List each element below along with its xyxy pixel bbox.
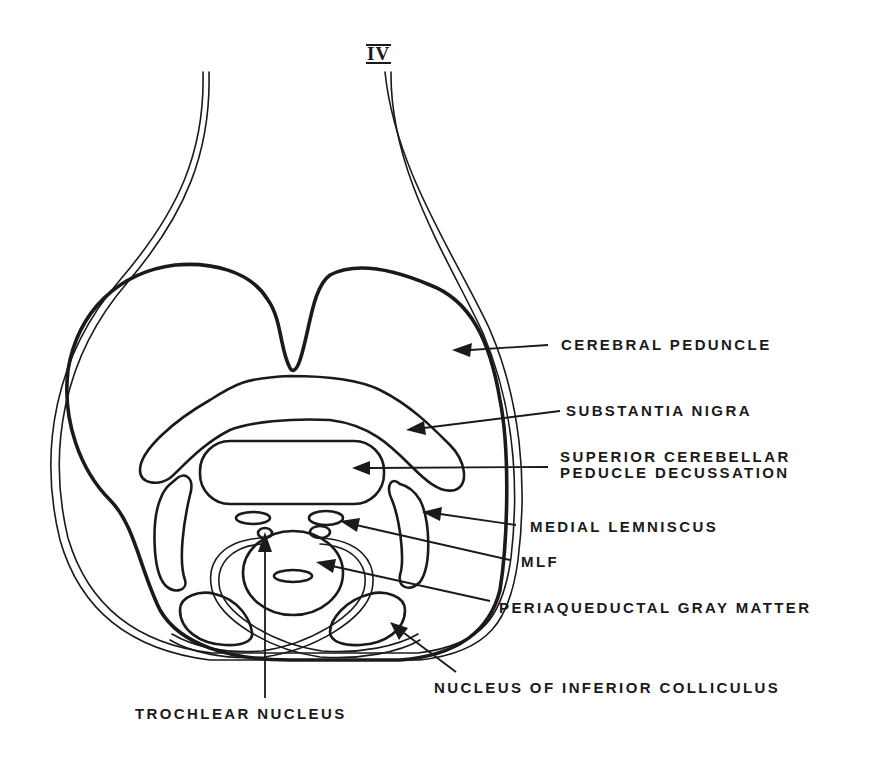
label-scp-decussation-line2: PEDUCLE DECUSSATION [560, 465, 790, 481]
medial-lemniscus-left [155, 476, 192, 591]
mlf-right [309, 511, 343, 525]
cerebral-aqueduct [274, 570, 312, 582]
midbrain-diagram [0, 0, 890, 770]
label-periaqueductal-gray: PERIAQUEDUCTAL GRAY MATTER [499, 600, 811, 616]
label-medial-lemniscus: MEDIAL LEMNISCUS [530, 519, 718, 535]
label-substantia-nigra: SUBSTANTIA NIGRA [566, 403, 752, 419]
periaqueductal-gray-outline [243, 531, 343, 615]
label-cerebral-peduncle: CEREBRAL PEDUNCLE [561, 337, 772, 353]
outer-envelope [51, 72, 522, 660]
scp-decussation-outline [200, 441, 384, 504]
cerebral-peduncle-outline [67, 264, 507, 660]
label-trochlear-nucleus: TROCHLEAR NUCLEUS [135, 706, 347, 722]
label-inferior-colliculus: NUCLEUS OF INFERIOR COLLICULUS [434, 680, 780, 696]
substantia-nigra-outline [140, 376, 464, 491]
figure-title: IV [366, 44, 391, 64]
label-mlf: MLF [521, 554, 559, 570]
label-scp-decussation-line1: SUPERIOR CEREBELLAR [560, 449, 791, 465]
mlf-left [236, 512, 270, 524]
